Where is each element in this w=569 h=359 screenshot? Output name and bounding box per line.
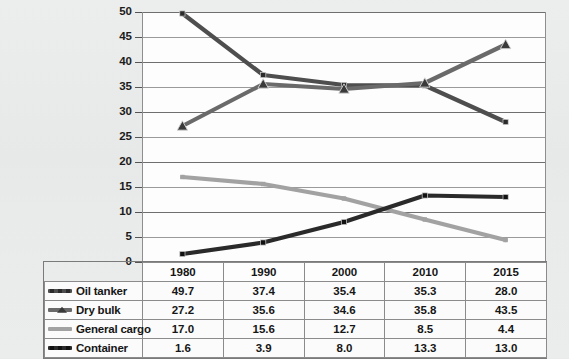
y-tick-label-20: 20 <box>112 156 132 168</box>
table-cell: 15.6 <box>223 320 304 339</box>
legend-triangle-marker-icon <box>57 307 67 313</box>
data-point-marker <box>261 240 266 245</box>
legend-square-marker-icon <box>66 346 70 350</box>
y-tick-label-50: 50 <box>112 6 132 18</box>
table-row: Container1.63.98.013.313.0 <box>45 339 547 358</box>
data-point-marker <box>261 182 265 186</box>
table-cell: 28.0 <box>466 282 547 301</box>
legend-entry: Container <box>48 342 142 354</box>
legend-square-marker-icon <box>50 346 54 350</box>
data-table: 19801990200020102015 Oil tanker49.737.43… <box>44 262 547 358</box>
legend-swatch-none-icon <box>48 324 72 334</box>
legend-square-marker-icon <box>58 346 62 350</box>
legend-label: Dry bulk <box>76 304 120 316</box>
legend-label: Oil tanker <box>76 285 127 297</box>
data-point-marker <box>423 217 427 221</box>
data-point-marker <box>342 196 346 200</box>
data-point-marker <box>422 193 427 198</box>
y-tick-mark-35 <box>135 87 142 88</box>
y-tick-label-5: 5 <box>112 231 132 243</box>
legend-entry: Oil tanker <box>48 285 142 297</box>
column-header-2010: 2010 <box>385 263 466 282</box>
data-point-marker <box>180 11 185 16</box>
table-row: General cargo17.015.612.78.54.4 <box>45 320 547 339</box>
table-cell: 27.2 <box>143 301 224 320</box>
legend-row-container: Container <box>45 339 143 358</box>
data-point-marker <box>180 175 184 179</box>
table-cell: 17.0 <box>143 320 224 339</box>
legend-square-marker-icon <box>58 289 62 293</box>
legend-row-general-cargo: General cargo <box>45 320 143 339</box>
y-tick-mark-25 <box>135 137 142 138</box>
table-corner-cell <box>45 263 143 282</box>
legend-swatch-triangle-icon <box>48 305 72 315</box>
column-header-1990: 1990 <box>223 263 304 282</box>
table-row: Oil tanker49.737.435.435.328.0 <box>45 282 547 301</box>
table-cell: 1.6 <box>143 339 224 358</box>
series-container <box>180 193 508 257</box>
column-header-2015: 2015 <box>466 263 547 282</box>
table-cell: 13.0 <box>466 339 547 358</box>
table-row: Dry bulk27.235.634.635.843.5 <box>45 301 547 320</box>
column-header-1980: 1980 <box>143 263 224 282</box>
y-tick-mark-30 <box>135 112 142 113</box>
y-tick-mark-20 <box>135 162 142 163</box>
data-point-marker <box>180 251 185 256</box>
series-general-cargo <box>180 175 508 242</box>
table-cell: 12.7 <box>304 320 385 339</box>
y-tick-label-45: 45 <box>112 31 132 43</box>
legend-swatch-square-icon <box>48 286 72 296</box>
y-tick-mark-50 <box>135 12 142 13</box>
data-point-marker <box>503 119 508 124</box>
legend-line-icon <box>48 327 72 331</box>
legend-square-marker-icon <box>50 289 54 293</box>
table-cell: 35.8 <box>385 301 466 320</box>
data-point-marker <box>503 194 508 199</box>
y-tick-label-25: 25 <box>112 131 132 143</box>
y-tick-label-30: 30 <box>112 106 132 118</box>
legend-entry: Dry bulk <box>48 304 142 316</box>
table-cell: 35.3 <box>385 282 466 301</box>
table-head: 19801990200020102015 <box>45 263 547 282</box>
y-tick-mark-5 <box>135 237 142 238</box>
legend-row-dry-bulk: Dry bulk <box>45 301 143 320</box>
table-body: Oil tanker49.737.435.435.328.0Dry bulk27… <box>45 282 547 358</box>
legend-row-oil-tanker: Oil tanker <box>45 282 143 301</box>
table-cell: 34.6 <box>304 301 385 320</box>
chart-figure: 05101520253035404550 1980199020002010201… <box>112 6 549 353</box>
series-dry-bulk <box>177 39 511 130</box>
series-line <box>182 177 505 240</box>
table-cell: 13.3 <box>385 339 466 358</box>
y-tick-mark-10 <box>135 212 142 213</box>
y-tick-label-10: 10 <box>112 206 132 218</box>
legend-label: Container <box>76 342 128 354</box>
series-layer <box>142 12 546 262</box>
table-cell: 37.4 <box>223 282 304 301</box>
table-cell: 35.4 <box>304 282 385 301</box>
table-cell: 3.9 <box>223 339 304 358</box>
table-cell: 49.7 <box>143 282 224 301</box>
legend-label: General cargo <box>76 323 151 335</box>
table-cell: 8.5 <box>385 320 466 339</box>
y-tick-mark-45 <box>135 37 142 38</box>
table-cell: 35.6 <box>223 301 304 320</box>
y-tick-mark-15 <box>135 187 142 188</box>
data-point-marker <box>261 72 266 77</box>
y-tick-label-15: 15 <box>112 181 132 193</box>
legend-square-marker-icon <box>66 289 70 293</box>
y-tick-label-35: 35 <box>112 81 132 93</box>
table-cell: 4.4 <box>466 320 547 339</box>
table-cell: 43.5 <box>466 301 547 320</box>
column-header-2000: 2000 <box>304 263 385 282</box>
legend-swatch-square-icon <box>48 343 72 353</box>
legend-entry: General cargo <box>48 323 142 335</box>
table-header-row: 19801990200020102015 <box>45 263 547 282</box>
y-tick-label-40: 40 <box>112 56 132 68</box>
data-point-marker <box>503 238 507 242</box>
table-cell: 8.0 <box>304 339 385 358</box>
data-point-marker <box>341 219 346 224</box>
y-tick-mark-40 <box>135 62 142 63</box>
